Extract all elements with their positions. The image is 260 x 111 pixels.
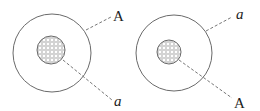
left-figure: A a <box>13 8 124 109</box>
right-inner-circle <box>157 40 181 64</box>
left-label-A: A <box>113 8 124 24</box>
right-label-A: A <box>234 95 245 111</box>
right-leader-a <box>206 17 232 31</box>
left-inner-circle <box>37 36 65 64</box>
left-leader-A <box>86 17 111 30</box>
diagram-canvas: A a a A <box>0 0 260 111</box>
right-label-a: a <box>236 6 244 22</box>
left-leader-a <box>63 60 112 100</box>
left-label-a: a <box>114 93 122 109</box>
right-figure: a A <box>136 6 245 111</box>
right-leader-A <box>179 60 232 98</box>
